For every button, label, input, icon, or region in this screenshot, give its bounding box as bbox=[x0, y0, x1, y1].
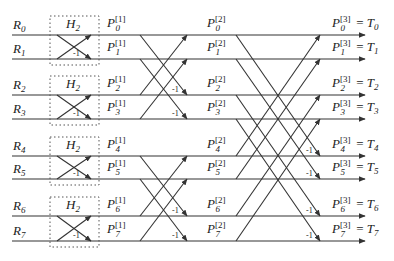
stage2-label: P[2]7 bbox=[206, 220, 225, 239]
minus-one-label: -1 bbox=[172, 206, 179, 215]
output-label: P[3]4 = T4 bbox=[331, 135, 379, 154]
stage2-label: P[2]1 bbox=[206, 38, 225, 57]
minus-one-label: -1 bbox=[73, 169, 80, 178]
minus-one-label: -1 bbox=[73, 231, 80, 240]
stage1-label: P[1]6 bbox=[106, 195, 125, 214]
h2-label: H2 bbox=[65, 76, 80, 93]
stage1-label: P[1]5 bbox=[106, 158, 125, 177]
stage1-label: P[1]7 bbox=[106, 220, 125, 239]
output-label: P[3]0 = T0 bbox=[331, 14, 379, 33]
input-label-r3: R3 bbox=[12, 101, 26, 118]
stage1-label: P[1]1 bbox=[106, 38, 125, 57]
output-label: P[3]3 = T3 bbox=[331, 98, 379, 117]
minus-one-label: -1 bbox=[306, 206, 313, 215]
output-label: P[3]6 = T6 bbox=[331, 195, 379, 214]
output-label: P[3]7 = T7 bbox=[331, 220, 379, 239]
minus-one-label: -1 bbox=[306, 146, 313, 155]
h2-label: H2 bbox=[65, 197, 80, 214]
input-label-r7: R7 bbox=[12, 223, 26, 240]
input-label-r4: R4 bbox=[12, 138, 26, 155]
h2-label: H2 bbox=[65, 137, 80, 154]
butterfly-diagram: R0R1R2R3R4R5R6R7H2-1H2-1H2-1H2-1P[1]0P[1… bbox=[0, 0, 394, 261]
stage2-label: P[2]5 bbox=[206, 158, 225, 177]
output-label: P[3]5 = T5 bbox=[331, 158, 379, 177]
stage1-label: P[1]3 bbox=[106, 98, 125, 117]
output-label: P[3]2 = T2 bbox=[331, 74, 379, 93]
stage2-label: P[2]4 bbox=[206, 135, 225, 154]
stage2-label: P[2]3 bbox=[206, 98, 225, 117]
stage1-label: P[1]4 bbox=[106, 135, 125, 154]
minus-one-label: -1 bbox=[73, 109, 80, 118]
minus-one-label: -1 bbox=[172, 85, 179, 94]
output-label: P[3]1 = T1 bbox=[331, 38, 379, 57]
minus-one-label: -1 bbox=[306, 231, 313, 240]
stage1-label: P[1]0 bbox=[106, 14, 125, 33]
minus-one-label: -1 bbox=[172, 231, 179, 240]
h2-label: H2 bbox=[65, 16, 80, 33]
stage1-label: P[1]2 bbox=[106, 74, 125, 93]
input-label-r0: R0 bbox=[12, 17, 26, 34]
minus-one-label: -1 bbox=[172, 109, 179, 118]
stage2-label: P[2]2 bbox=[206, 74, 225, 93]
input-label-r5: R5 bbox=[12, 161, 26, 178]
minus-one-label: -1 bbox=[73, 49, 80, 58]
input-label-r6: R6 bbox=[12, 198, 26, 215]
minus-one-label: -1 bbox=[306, 169, 313, 178]
stage2-label: P[2]0 bbox=[206, 14, 225, 33]
input-label-r2: R2 bbox=[12, 77, 26, 94]
input-label-r1: R1 bbox=[12, 41, 25, 58]
stage2-label: P[2]6 bbox=[206, 195, 225, 214]
